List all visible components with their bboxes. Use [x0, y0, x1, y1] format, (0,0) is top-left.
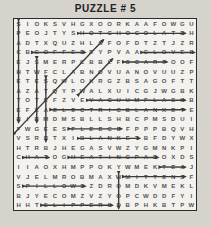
- grid-cell: L: [96, 86, 105, 96]
- grid-cell: S: [132, 76, 141, 86]
- grid-cell: E: [187, 105, 196, 115]
- grid-cell: T: [141, 38, 150, 48]
- grid-cell: S: [187, 153, 196, 163]
- grid-cell: P: [23, 181, 32, 191]
- grid-cell: I: [105, 105, 114, 115]
- grid-cell: H: [60, 162, 69, 172]
- grid-cell: P: [69, 57, 78, 67]
- grid-cell: A: [123, 48, 132, 58]
- grid-cell: S: [78, 181, 87, 191]
- grid-cell: C: [14, 153, 23, 163]
- grid-cell: U: [114, 86, 123, 96]
- grid-cell: A: [87, 86, 96, 96]
- grid-cell: A: [141, 153, 150, 163]
- grid-cell: R: [60, 57, 69, 67]
- grid-cell: C: [78, 57, 87, 67]
- grid-cell: L: [187, 181, 196, 191]
- grid-cell: T: [14, 95, 23, 105]
- grid-cell: T: [32, 200, 41, 210]
- grid-cell: O: [41, 162, 50, 172]
- grid-cell: E: [169, 181, 178, 191]
- grid-cell: T: [41, 86, 50, 96]
- grid-cell: T: [160, 162, 169, 172]
- grid-cell: H: [14, 67, 23, 77]
- grid-cell: F: [123, 38, 132, 48]
- grid-cell: L: [60, 105, 69, 115]
- grid-cell: P: [141, 124, 150, 134]
- grid-cell: I: [32, 181, 41, 191]
- grid-cell: T: [96, 29, 105, 39]
- grid-cell: H: [69, 153, 78, 163]
- grid-cell: P: [87, 162, 96, 172]
- grid-cell: P: [78, 200, 87, 210]
- grid-cell: A: [87, 153, 96, 163]
- grid-cell: H: [114, 115, 123, 125]
- grid-cell: F: [114, 57, 123, 67]
- grid-cell: E: [141, 162, 150, 172]
- grid-cell: V: [178, 124, 187, 134]
- grid-cell: O: [105, 19, 114, 29]
- grid-cell: E: [178, 29, 187, 39]
- grid-cell: F: [187, 172, 196, 182]
- grid-cell: Q: [50, 38, 59, 48]
- grid-cell: R: [96, 200, 105, 210]
- grid-cell: P: [78, 162, 87, 172]
- grid-cell: E: [41, 95, 50, 105]
- grid-cell: M: [132, 162, 141, 172]
- grid-cell: A: [96, 172, 105, 182]
- grid-cell: F: [50, 95, 59, 105]
- grid-cell: S: [96, 143, 105, 153]
- grid-cell: A: [14, 86, 23, 96]
- grid-cell: O: [160, 153, 169, 163]
- grid-cell: B: [178, 86, 187, 96]
- grid-cell: E: [41, 124, 50, 134]
- grid-cell: C: [105, 124, 114, 134]
- grid-cell: G: [169, 86, 178, 96]
- grid-cell: L: [60, 67, 69, 77]
- grid-cell: B: [78, 134, 87, 144]
- grid-cell: T: [187, 76, 196, 86]
- grid-cell: T: [50, 29, 59, 39]
- grid-cell: C: [132, 29, 141, 39]
- grid-cell: O: [96, 162, 105, 172]
- grid-cell: I: [187, 115, 196, 125]
- grid-cell: E: [14, 105, 23, 115]
- grid-cell: A: [141, 105, 150, 115]
- grid-cell: O: [160, 19, 169, 29]
- grid-cell: A: [87, 143, 96, 153]
- grid-cell: K: [151, 162, 160, 172]
- grid-cell: S: [96, 38, 105, 48]
- grid-cell: L: [41, 172, 50, 182]
- grid-cell: B: [187, 95, 196, 105]
- grid-cell: C: [14, 48, 23, 58]
- grid-cell: A: [160, 95, 169, 105]
- grid-cell: L: [105, 57, 114, 67]
- grid-cell: B: [123, 76, 132, 86]
- grid-cell: K: [169, 143, 178, 153]
- grid-cell: K: [187, 86, 196, 96]
- grid-cell: P: [178, 200, 187, 210]
- grid-cell: A: [41, 105, 50, 115]
- grid-cell: B: [123, 115, 132, 125]
- grid-cell: X: [169, 153, 178, 163]
- grid-cell: E: [78, 95, 87, 105]
- grid-cell: Y: [132, 143, 141, 153]
- grid-cell: C: [78, 105, 87, 115]
- grid-cell: E: [32, 172, 41, 182]
- grid-cell: E: [41, 191, 50, 201]
- grid-cell: F: [41, 67, 50, 77]
- grid-cell: G: [105, 76, 114, 86]
- grid-cell: I: [105, 153, 114, 163]
- grid-cell: I: [23, 115, 32, 125]
- grid-cell: T: [23, 76, 32, 86]
- grid-cell: C: [50, 67, 59, 77]
- grid-cell: I: [123, 86, 132, 96]
- grid-cell: L: [151, 95, 160, 105]
- grid-cell: V: [60, 19, 69, 29]
- grid-cell: H: [187, 29, 196, 39]
- grid-cell: E: [69, 105, 78, 115]
- grid-cell: S: [23, 134, 32, 144]
- grid-cell: J: [41, 29, 50, 39]
- grid-cell: O: [32, 19, 41, 29]
- grid-cell: E: [169, 162, 178, 172]
